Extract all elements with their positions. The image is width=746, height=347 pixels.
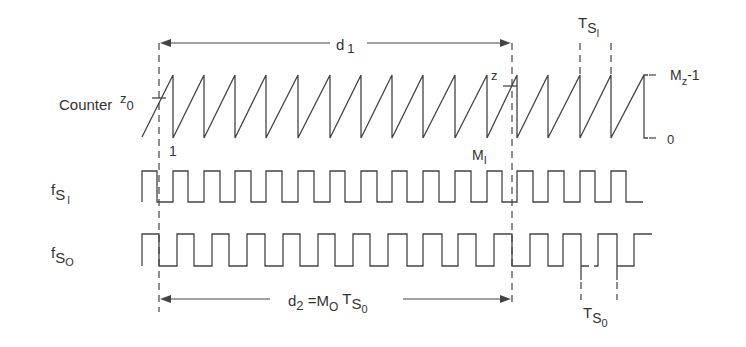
counter-sawtooth-waveform <box>142 75 648 138</box>
fsi-label: fSI <box>51 181 70 206</box>
d2-label: d2 =MO TS0 <box>288 290 368 315</box>
count-start-label: 1 <box>169 143 177 159</box>
timing-diagram: Counter fSI fSO z0 Mz-1 0 1 MI z d1 TSI … <box>0 0 746 347</box>
tso-label: TS0 <box>583 304 608 329</box>
svg-text:fSO: fSO <box>51 244 74 268</box>
svg-text:fSI: fSI <box>51 181 70 206</box>
d1-label: d1 <box>336 36 355 56</box>
top-level-label: Mz-1 <box>670 67 700 87</box>
fsi-square-waveform <box>142 171 643 202</box>
counter-label: Counter <box>59 96 112 113</box>
mi-label: MI <box>472 147 487 166</box>
bottom-level-label: 0 <box>667 132 674 147</box>
fso-label: fSO <box>51 244 74 268</box>
tsi-label: TSI <box>578 14 599 39</box>
fso-square-waveform <box>142 234 652 280</box>
z-label: z <box>491 68 498 83</box>
z0-label: z0 <box>120 91 134 113</box>
